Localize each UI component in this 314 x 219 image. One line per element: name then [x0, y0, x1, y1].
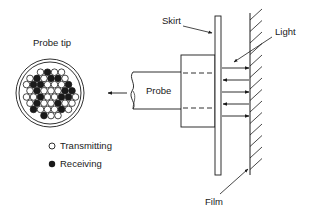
transmitting-fiber [48, 112, 55, 119]
transmitting-fiber [51, 81, 58, 88]
transmitting-fiber [51, 69, 58, 76]
transmitting-fiber [58, 69, 65, 76]
receiving-fiber [55, 75, 62, 82]
receiving-fiber [55, 100, 62, 107]
legend-receiving-icon [49, 161, 55, 167]
probe-tip-cross-section [16, 59, 84, 127]
receiving-fiber [58, 94, 65, 101]
transmitting-fiber [72, 94, 79, 101]
transmitting-fiber [44, 106, 51, 113]
fiber-bundle [23, 69, 79, 119]
film-surface [250, 9, 262, 175]
transmitting-fiber [41, 88, 48, 95]
skirt-label: Skirt [162, 16, 181, 26]
probe-label: Probe [146, 86, 171, 96]
transmitting-fiber [51, 106, 58, 113]
transmitting-fiber [48, 88, 55, 95]
diagram-canvas [0, 0, 314, 219]
transmitting-fiber [44, 81, 51, 88]
light-label: Light [275, 27, 296, 37]
transmitting-fiber [23, 81, 30, 88]
receiving-fiber [30, 81, 37, 88]
transmitting-fiber [41, 100, 48, 107]
receiving-fiber [48, 75, 55, 82]
transmitting-fiber [58, 81, 65, 88]
diagram-svg [0, 0, 314, 219]
transmitting-fiber [27, 88, 34, 95]
transmitting-fiber [65, 106, 72, 113]
transmitting-fiber [51, 94, 58, 101]
receiving-fiber [37, 81, 44, 88]
transmitting-fiber [23, 94, 30, 101]
light-arrows [222, 68, 249, 116]
film-leader-line [220, 169, 248, 194]
transmitting-fiber [69, 100, 76, 107]
transmitting-fiber [30, 94, 37, 101]
transmitting-fiber [62, 100, 69, 107]
skirt-plate [215, 16, 221, 175]
probe-collar [181, 55, 215, 127]
receiving-fiber [30, 106, 37, 113]
transmitting-fiber [27, 75, 34, 82]
transmitting-fiber [37, 106, 44, 113]
skirt-leader-line [183, 26, 212, 33]
receiving-fiber [34, 75, 41, 82]
transmitting-fiber [44, 94, 51, 101]
legend-transmitting-icon [49, 143, 55, 149]
film-label: Film [205, 197, 223, 207]
transmitting-fiber [37, 69, 44, 76]
receiving-fiber [65, 94, 72, 101]
receiving-fiber [69, 88, 76, 95]
transmitting-fiber [41, 75, 48, 82]
receiving-fiber [34, 100, 41, 107]
receiving-fiber [62, 88, 69, 95]
receiving-fiber [37, 94, 44, 101]
transmitting-fiber [55, 88, 62, 95]
receiving-fiber [34, 88, 41, 95]
receiving-fiber [41, 112, 48, 119]
probe-tip-label: Probe tip [33, 38, 71, 48]
legend-transmitting-label: Transmitting [60, 141, 112, 151]
receiving-fiber [44, 69, 51, 76]
transmitting-fiber [62, 75, 69, 82]
transmitting-fiber [48, 100, 55, 107]
transmitting-fiber [27, 100, 34, 107]
receiving-fiber [65, 81, 72, 88]
receiving-fiber [58, 106, 65, 113]
transmitting-fiber [55, 112, 62, 119]
legend-receiving-label: Receiving [60, 159, 102, 169]
